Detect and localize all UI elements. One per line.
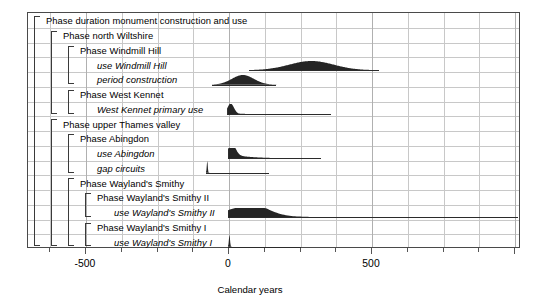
bracket-tip-bottom	[35, 245, 40, 246]
phase-label: Phase duration monument construction and…	[46, 17, 247, 26]
hpd-range-bar	[249, 70, 379, 71]
chronology-chart: Phase duration monument construction and…	[0, 0, 538, 308]
axis-tick-minor	[300, 248, 301, 252]
bracket-tip-top	[69, 134, 74, 135]
axis-tick-major	[371, 248, 372, 254]
hpd-range-bar	[206, 173, 269, 174]
hpd-range-bar	[228, 217, 517, 218]
phase-label: Phase Wayland's Smithy I	[97, 223, 206, 232]
probability-distribution	[249, 61, 379, 70]
phase-label: Phase north Wiltshire	[63, 31, 153, 40]
bracket-tip-top	[86, 223, 91, 224]
axis-tick-minor	[157, 248, 158, 252]
phase-bracket-monument-construction-and-use	[34, 16, 35, 246]
bracket-tip-bottom	[86, 216, 91, 217]
hpd-range-bar	[227, 114, 332, 115]
axis-tick-major	[228, 248, 229, 254]
distribution-label: use Abingdon	[97, 149, 155, 158]
bracket-tip-bottom	[86, 245, 91, 246]
phase-bracket-upper-thames-valley	[51, 119, 52, 246]
bracket-tip-top	[52, 119, 57, 120]
probability-distribution	[228, 148, 321, 159]
axis-tick-minor	[335, 248, 336, 252]
phase-bracket-windmill-hill	[68, 46, 69, 84]
axis-tick-minor	[478, 248, 479, 252]
hpd-range-bar	[212, 85, 276, 86]
bracket-tip-top	[69, 90, 74, 91]
bracket-tip-bottom	[52, 113, 57, 114]
axis-tick-major	[514, 248, 515, 254]
probability-distribution	[206, 161, 269, 173]
axis-tick-major	[85, 248, 86, 254]
distribution-label: period construction	[97, 76, 177, 85]
bracket-tip-bottom	[52, 245, 57, 246]
phase-label: Phase Abingdon	[80, 135, 149, 144]
distribution-label: gap circuits	[97, 164, 145, 173]
axis-tick-minor	[49, 248, 50, 252]
phase-label: Phase Wayland's Smithy II	[97, 194, 209, 203]
distribution-label: use Wayland's Smithy I	[114, 238, 212, 247]
probability-distribution	[228, 235, 301, 247]
probability-distribution	[212, 75, 276, 85]
axis-tick-label: -500	[75, 258, 96, 269]
bracket-tip-top	[69, 178, 74, 179]
axis-tick-minor	[264, 248, 265, 252]
phase-bracket-waylands-smithy	[68, 178, 69, 246]
phase-label: Phase West Kennet	[80, 90, 164, 99]
distribution-label: use Wayland's Smithy II	[114, 208, 215, 217]
probability-distribution	[227, 104, 332, 114]
phase-bracket-waylands-smithy-ii	[85, 193, 86, 217]
axis-tick-minor	[121, 248, 122, 252]
phase-bracket-north-wiltshire	[51, 31, 52, 114]
bracket-tip-top	[69, 46, 74, 47]
axis-tick-minor	[407, 248, 408, 252]
axis-tick-minor	[443, 248, 444, 252]
bracket-tip-bottom	[69, 113, 74, 114]
axis-tick-label: 500	[362, 258, 379, 269]
phase-bracket-waylands-smithy-i	[85, 223, 86, 247]
axis-title: Calendar years	[217, 284, 282, 295]
probability-distribution	[228, 208, 517, 217]
bracket-tip-top	[86, 193, 91, 194]
distribution-label: use Windmill Hill	[97, 61, 167, 70]
bracket-tip-bottom	[69, 245, 74, 246]
axis-tick-minor	[192, 248, 193, 252]
distribution-row: use Wayland's Smithy I	[28, 234, 519, 251]
axis-tick-label: 0	[225, 258, 231, 269]
bracket-tip-bottom	[69, 83, 74, 84]
phase-label: Phase Windmill Hill	[80, 46, 161, 55]
bracket-tip-bottom	[69, 172, 74, 173]
phase-label: Phase upper Thames valley	[63, 120, 180, 129]
hpd-range-bar	[228, 158, 321, 159]
distribution-label: West Kennet primary use	[97, 105, 203, 114]
phase-bracket-abingdon	[68, 134, 69, 172]
bracket-tip-top	[35, 16, 40, 17]
bracket-tip-top	[52, 31, 57, 32]
plot-frame: Phase duration monument construction and…	[27, 12, 520, 248]
phase-label: Phase Wayland's Smithy	[80, 179, 184, 188]
phase-bracket-west-kennet	[68, 90, 69, 114]
